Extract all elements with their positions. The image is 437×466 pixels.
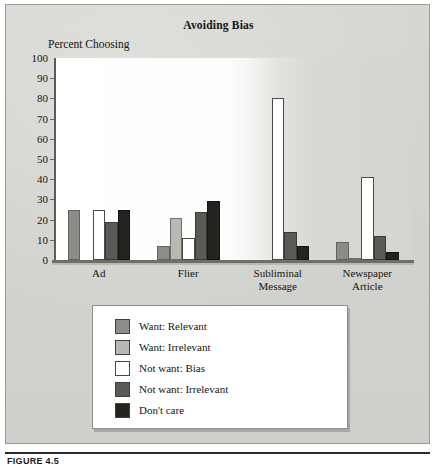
legend-swatch — [115, 403, 130, 418]
legend-item: Don't care — [115, 400, 184, 420]
figure-container: Avoiding Bias Percent Choosing 010203040… — [0, 0, 437, 466]
bar — [386, 252, 399, 260]
y-tick-label: 0 — [6, 255, 48, 265]
bar — [374, 236, 387, 260]
legend-label: Don't care — [139, 404, 184, 416]
legend-label: Want: Relevant — [139, 320, 207, 332]
bar — [118, 210, 131, 261]
bar — [284, 232, 297, 260]
legend-label: Not want: Bias — [139, 362, 205, 374]
legend-swatch — [115, 319, 130, 334]
bar — [361, 177, 374, 260]
legend-swatch — [115, 361, 130, 376]
caption-divider — [5, 452, 430, 454]
bar — [336, 242, 349, 260]
bar — [297, 246, 310, 260]
bar — [207, 201, 220, 260]
x-axis-shadow — [52, 263, 414, 265]
y-tick-label: 70 — [6, 114, 48, 124]
bar — [68, 210, 81, 261]
plot-area — [54, 58, 414, 260]
legend-item: Want: Relevant — [115, 316, 207, 336]
chart-legend: Want: RelevantWant: IrrelevantNot want: … — [92, 305, 348, 429]
legend-label: Want: Irrelevant — [139, 341, 211, 353]
bar — [157, 246, 170, 260]
bar — [93, 210, 106, 261]
y-tick-label: 10 — [6, 235, 48, 245]
bar — [272, 98, 285, 260]
figure-caption: FIGURE 4.5 — [7, 456, 59, 466]
legend-swatch — [115, 382, 130, 397]
bar — [170, 218, 183, 260]
x-category-label: NewspaperArticle — [315, 267, 421, 292]
legend-item: Not want: Bias — [115, 358, 205, 378]
bar — [105, 222, 118, 260]
chart-title: Avoiding Bias — [6, 19, 431, 31]
bar — [195, 212, 208, 260]
y-axis-title: Percent Choosing — [48, 38, 129, 50]
y-tick-label: 80 — [6, 93, 48, 103]
legend-swatch — [115, 340, 130, 355]
legend-label: Not want: Irrelevant — [139, 383, 228, 395]
chart-panel: Avoiding Bias Percent Choosing 010203040… — [5, 4, 430, 444]
y-tick-label: 20 — [6, 215, 48, 225]
y-tick-label: 60 — [6, 134, 48, 144]
legend-item: Not want: Irrelevant — [115, 379, 228, 399]
y-tick-label: 100 — [6, 53, 48, 63]
bar — [182, 238, 195, 260]
y-tick-label: 40 — [6, 174, 48, 184]
y-tick-label: 50 — [6, 154, 48, 164]
y-tick-label: 30 — [6, 194, 48, 204]
legend-item: Want: Irrelevant — [115, 337, 211, 357]
y-tick-label: 90 — [6, 73, 48, 83]
